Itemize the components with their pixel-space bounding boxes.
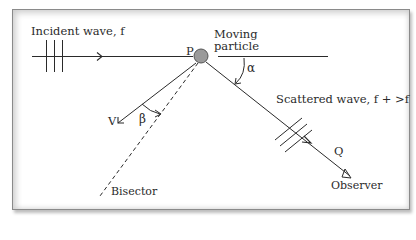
beta-label: β xyxy=(139,113,146,125)
alpha-label: α xyxy=(247,62,255,74)
incident-wave xyxy=(32,40,193,72)
wavefront-tick xyxy=(285,130,312,152)
point-q-label: Q xyxy=(334,145,343,157)
bisector-label: Bisector xyxy=(111,186,157,198)
alpha-arc xyxy=(236,58,244,83)
observer-label: Observer xyxy=(331,180,382,192)
bisector-line xyxy=(100,63,198,196)
incident-wave-label: Incident wave, f xyxy=(31,25,125,37)
velocity-vector xyxy=(118,63,196,123)
moving-particle-icon xyxy=(194,49,208,63)
moving-label-line2: particle xyxy=(214,40,259,52)
wavefront-tick xyxy=(280,124,307,146)
velocity-label: V xyxy=(108,115,116,127)
wavefront-tick xyxy=(275,118,302,140)
scattered-wave xyxy=(206,62,351,178)
point-p-label: P xyxy=(186,45,194,57)
scattered-wave-label: Scattered wave, f + >f xyxy=(276,93,409,105)
